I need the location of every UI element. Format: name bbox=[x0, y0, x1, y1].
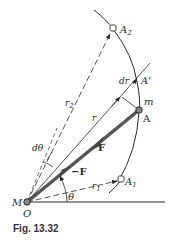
mass-m-marker bbox=[136, 107, 142, 113]
force-vector-line bbox=[27, 110, 139, 202]
label-A: A bbox=[142, 113, 151, 124]
label-dr: dr bbox=[119, 76, 130, 86]
label-M: M bbox=[11, 197, 23, 208]
label-A-prime: A' bbox=[140, 75, 151, 86]
label-r2: r2 bbox=[65, 98, 74, 110]
label-F: F bbox=[98, 142, 105, 153]
point-A1-marker bbox=[118, 176, 124, 182]
label-A1: A1 bbox=[124, 176, 137, 189]
trajectory-curve bbox=[94, 10, 140, 182]
central-force-diagram: A2 dr A' m A r2 r dθ F −F A1 r1 θ M O Fi… bbox=[0, 0, 175, 244]
radius-r2-line bbox=[27, 34, 110, 202]
label-neg-F: −F bbox=[71, 166, 86, 177]
label-theta: θ bbox=[68, 191, 74, 202]
d-theta-pointer bbox=[47, 152, 52, 160]
figure-caption: Fig. 13.32 bbox=[13, 223, 59, 234]
label-r1: r1 bbox=[92, 181, 101, 193]
label-O: O bbox=[23, 208, 31, 219]
label-r: r bbox=[92, 113, 97, 123]
origin-O-marker bbox=[24, 199, 30, 205]
theta-angle-arc bbox=[60, 176, 67, 202]
label-m: m bbox=[144, 96, 153, 107]
label-d-theta: dθ bbox=[32, 143, 44, 153]
r-line-arrow bbox=[112, 97, 120, 106]
label-A2: A2 bbox=[119, 24, 132, 37]
point-A2-marker bbox=[110, 25, 116, 31]
